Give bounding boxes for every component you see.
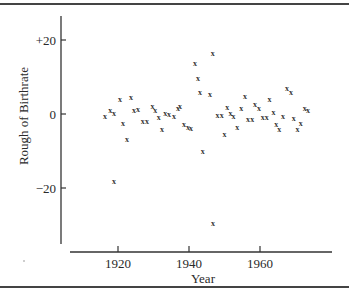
y-axis-title: Rough of Birthrate bbox=[16, 67, 31, 165]
data-point-marker: x bbox=[299, 119, 303, 128]
y-tick-label-plus-20: +20 bbox=[36, 33, 56, 48]
x-tick-label-1940: 1940 bbox=[176, 256, 202, 271]
data-point-marker: x bbox=[281, 112, 285, 121]
data-point-marker: x bbox=[118, 95, 122, 104]
data-point-marker: x bbox=[172, 112, 176, 121]
data-point-marker: x bbox=[167, 110, 171, 119]
data-point-marker: x bbox=[103, 112, 107, 121]
x-axis-title: Year bbox=[191, 271, 216, 286]
data-point-marker: x bbox=[223, 130, 227, 139]
speck-mark bbox=[23, 260, 24, 261]
data-point-marker: x bbox=[292, 114, 296, 123]
data-point-marker: x bbox=[257, 104, 261, 113]
data-point-marker: x bbox=[201, 147, 205, 156]
data-point-marker: x bbox=[193, 59, 197, 68]
data-point-marker: x bbox=[289, 88, 293, 97]
data-point-marker: x bbox=[235, 123, 239, 132]
data-point-marker: x bbox=[231, 112, 235, 121]
data-point-marker: x bbox=[129, 93, 133, 102]
data-point-marker: x bbox=[239, 104, 243, 113]
data-point-marker: x bbox=[189, 124, 193, 133]
y-tick-label-minus-20: −20 bbox=[36, 181, 56, 196]
data-point-marker: x bbox=[178, 102, 182, 111]
data-point-marker: x bbox=[211, 49, 215, 58]
data-point-marker: x bbox=[121, 119, 125, 128]
data-point-marker: x bbox=[306, 106, 310, 115]
data-point-marker: x bbox=[211, 219, 215, 228]
data-point-marker: x bbox=[160, 125, 164, 134]
x-tick-label-1920: 1920 bbox=[105, 256, 131, 271]
data-point-marker: x bbox=[272, 108, 276, 117]
data-point-marker: x bbox=[136, 105, 140, 114]
data-point-marker: x bbox=[220, 111, 224, 120]
data-point-marker: x bbox=[208, 90, 212, 99]
data-point-marker: x bbox=[265, 113, 269, 122]
scatter-chart: +20 0 −20 Rough of Birthrate 1920 1940 1… bbox=[0, 0, 349, 292]
data-point-marker: x bbox=[112, 177, 116, 186]
data-point-marker: x bbox=[157, 113, 161, 122]
data-point-marker: x bbox=[243, 92, 247, 101]
data-point-marker: x bbox=[145, 117, 149, 126]
x-tick-label-1960: 1960 bbox=[247, 256, 273, 271]
data-point-marker: x bbox=[125, 135, 129, 144]
data-point-marker: x bbox=[277, 125, 281, 134]
data-point-marker: x bbox=[112, 109, 116, 118]
y-tick-label-0: 0 bbox=[50, 107, 57, 122]
data-points-group: xxxxxxxxxxxxxxxxxxxxxxxxxxxxxxxxxxxxxxxx… bbox=[103, 49, 310, 228]
data-point-marker: x bbox=[268, 95, 272, 104]
data-point-marker: x bbox=[250, 115, 254, 124]
data-point-marker: x bbox=[198, 88, 202, 97]
data-point-marker: x bbox=[196, 74, 200, 83]
